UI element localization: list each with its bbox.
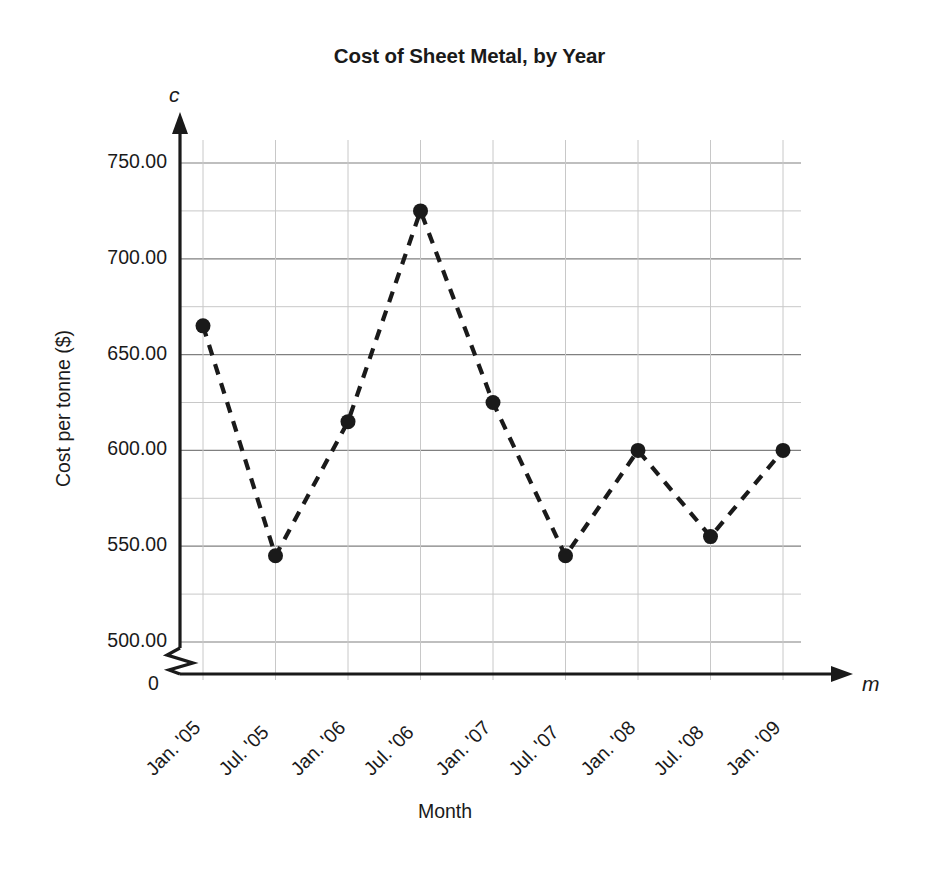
data-point-marker[interactable]: [776, 443, 791, 458]
data-point-marker[interactable]: [703, 529, 718, 544]
y-tick-label: 550.00: [57, 533, 167, 556]
data-point-marker[interactable]: [341, 414, 356, 429]
y-tick-label: 600.00: [57, 437, 167, 460]
chart-title: Cost of Sheet Metal, by Year: [0, 44, 939, 68]
x-tick-label: Jan. '05: [141, 716, 205, 780]
y-tick-label: 650.00: [57, 342, 167, 365]
data-point-marker[interactable]: [413, 203, 428, 218]
y-axis-arrowhead: [172, 112, 188, 134]
x-tick-label: Jan. '06: [286, 716, 350, 780]
x-tick-label: Jan. '07: [431, 716, 495, 780]
x-tick-label: Jul. '06: [359, 721, 419, 781]
y-tick-label: 700.00: [57, 246, 167, 269]
data-point-marker[interactable]: [268, 548, 283, 563]
x-tick-label: Jan. '08: [576, 716, 640, 780]
y-tick-label-group: 500.00550.00600.00650.00700.00750.00: [55, 140, 167, 680]
data-point-marker[interactable]: [558, 548, 573, 563]
data-point-marker[interactable]: [486, 395, 501, 410]
x-tick-label: Jan. '09: [721, 716, 785, 780]
y-tick-label: 750.00: [57, 150, 167, 173]
x-tick-label: Jul. '07: [504, 721, 564, 781]
x-tick-label: Jul. '08: [649, 721, 709, 781]
y-tick-label: 500.00: [57, 629, 167, 652]
x-tick-label: Jul. '05: [214, 721, 274, 781]
y-axis-break-zigzag: [167, 648, 193, 674]
y-axis-zero-label: 0: [148, 672, 159, 695]
x-axis-title: Month: [0, 800, 890, 823]
x-axis-variable-label: m: [862, 672, 880, 696]
y-axis-variable-label: c: [169, 83, 180, 107]
x-tick-label-group: Jan. '05Jul. '05Jan. '06Jul. '06Jan. '07…: [181, 692, 861, 802]
data-point-marker[interactable]: [631, 443, 646, 458]
data-point-marker[interactable]: [196, 318, 211, 333]
chart-figure: Cost of Sheet Metal, by Year c m Cost pe…: [0, 0, 939, 871]
x-axis-arrowhead: [831, 666, 853, 682]
plot-svg: [181, 140, 801, 680]
plot-area: [181, 140, 801, 680]
